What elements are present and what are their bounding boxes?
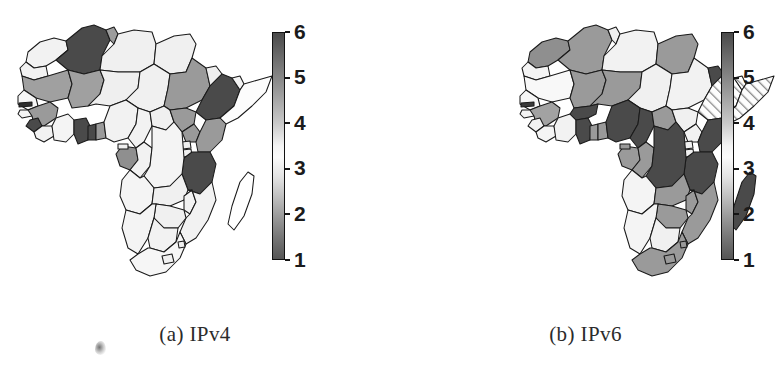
colorbar-ipv6: 6 5 4 3 2 (721, 32, 769, 260)
plot-area-ipv6: 6 5 4 3 2 (390, 0, 781, 300)
colorbar-gradient (721, 32, 734, 260)
tick-mark-icon (285, 213, 290, 215)
scan-smudge-artifact (95, 341, 106, 355)
panel-caption-ipv4: (a) IPv4 (0, 322, 430, 347)
figure-two-panel-africa-maps: 6 5 4 3 2 (0, 0, 781, 385)
colorbar-gradient (272, 32, 285, 260)
tick-mark-icon (734, 259, 739, 261)
tick-mark-icon (734, 77, 739, 79)
tick-mark-icon (285, 122, 290, 124)
region-gambia (521, 102, 534, 107)
panel-caption-ipv6: (b) IPv6 (390, 322, 781, 347)
tick-mark-icon (285, 168, 290, 170)
tick-mark-icon (285, 31, 290, 33)
africa-choropleth-svg-ipv4 (10, 14, 280, 286)
region-togo (88, 124, 96, 140)
tick-mark-icon (734, 168, 739, 170)
africa-map-ipv4 (10, 14, 280, 286)
region-togo (590, 124, 598, 140)
colorbar-ipv4: 6 5 4 3 2 (272, 32, 320, 260)
region-lesotho (162, 254, 174, 264)
panel-ipv6: 6 5 4 3 2 (390, 0, 781, 385)
region-madagascar (228, 172, 254, 230)
region-equatorial-guinea (620, 144, 630, 149)
region-kenya (196, 118, 226, 152)
colorbar-ticks: 6 5 4 3 2 (285, 32, 320, 260)
region-swaziland (680, 241, 687, 248)
region-gambia (19, 102, 32, 107)
tick-mark-icon (734, 122, 739, 124)
region-swaziland (178, 241, 185, 248)
tick-mark-icon (285, 259, 290, 261)
plot-area-ipv4: 6 5 4 3 2 (0, 0, 390, 300)
tick-mark-icon (285, 77, 290, 79)
region-lesotho (664, 254, 676, 264)
tick-mark-icon (734, 213, 739, 215)
colorbar-ticks: 6 5 4 3 2 (734, 32, 769, 260)
panel-ipv4: 6 5 4 3 2 (0, 0, 390, 385)
region-equatorial-guinea (118, 144, 128, 149)
tick-mark-icon (734, 31, 739, 33)
